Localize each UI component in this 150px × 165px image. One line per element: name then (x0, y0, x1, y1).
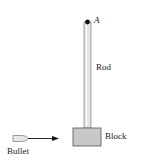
pivot-label: A (94, 16, 100, 25)
bullet-label: Bullet (7, 147, 29, 156)
block-label: Block (105, 132, 127, 141)
block (73, 128, 101, 146)
rod-label: Rod (96, 63, 111, 72)
velocity-arrow-icon (28, 136, 59, 141)
bullet-icon (13, 136, 28, 142)
diagram-canvas (0, 0, 150, 165)
rod (84, 22, 91, 128)
pivot-point (85, 20, 90, 25)
